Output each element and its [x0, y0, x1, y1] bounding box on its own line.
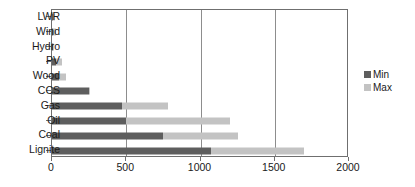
bar-row: [52, 69, 349, 84]
legend-item-max: Max: [364, 81, 392, 94]
bar-segment-max: [163, 132, 237, 139]
bar-row: [52, 114, 349, 129]
x-axis-label: 2000: [336, 161, 359, 173]
legend-item-min: Min: [364, 68, 392, 81]
chart-legend: MinMax: [364, 68, 392, 94]
bar-segment-max: [211, 147, 305, 154]
bar-segment-min: [52, 132, 163, 139]
bar-row: [52, 54, 349, 69]
y-axis-label-ccs: CCS: [0, 85, 60, 96]
legend-swatch-icon: [364, 84, 371, 91]
legend-swatch-icon: [364, 71, 371, 78]
legend-label: Min: [373, 69, 389, 80]
bar-row: [52, 25, 349, 40]
plot-area: [51, 9, 348, 157]
bar-segment-min: [52, 117, 126, 124]
bar-segment-max: [89, 88, 90, 95]
y-axis-label-lignite: Lignite: [0, 144, 60, 155]
bar-row: [52, 99, 349, 114]
y-axis-label-wind: Wind: [0, 26, 60, 37]
y-axis-label-wood: Wood: [0, 70, 60, 81]
y-axis-label-lwr: LWR: [0, 11, 60, 22]
bar-row: [52, 143, 349, 158]
y-axis-label-oil: Oil: [0, 115, 60, 126]
x-axis-label: 500: [116, 161, 134, 173]
y-axis-label-pv: PV: [0, 55, 60, 66]
legend-label: Max: [373, 82, 392, 93]
bar-segment-min: [52, 147, 211, 154]
bar-row: [52, 84, 349, 99]
x-axis-label: 1500: [262, 161, 285, 173]
y-axis-label-coal: Coal: [0, 129, 60, 140]
bar-row: [52, 40, 349, 55]
bar-segment-max: [126, 117, 230, 124]
bar-row: [52, 128, 349, 143]
x-axis-label: 1000: [188, 161, 211, 173]
bar-row: [52, 10, 349, 25]
bar-chart: MinMax LWRWindHydroPVWoodCCSGasOilCoalLi…: [0, 0, 415, 187]
y-axis-label-gas: Gas: [0, 100, 60, 111]
x-axis-label: 0: [48, 161, 54, 173]
bar-segment-max: [122, 103, 168, 110]
y-axis-label-hydro: Hydro: [0, 41, 60, 52]
bar-segment-min: [52, 103, 122, 110]
